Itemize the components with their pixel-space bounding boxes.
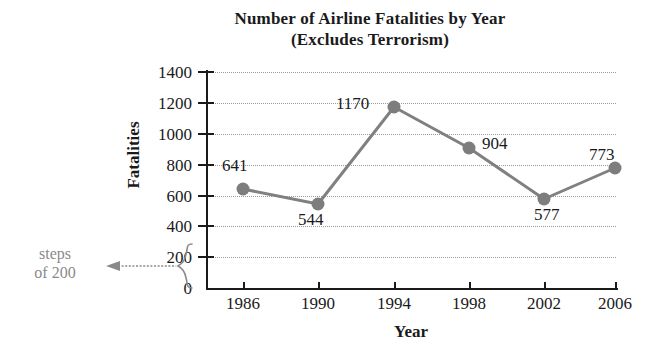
x-tick-1986: [243, 282, 245, 290]
annotation-line2: of 200: [12, 263, 98, 282]
x-axis-line: [206, 288, 618, 290]
data-label-1986: 641: [222, 157, 248, 174]
y-tick-1000: [198, 133, 214, 135]
chart-figure: Number of Airline Fatalities by Year (Ex…: [0, 0, 646, 356]
gridline-1000: [206, 134, 616, 135]
x-tick-1998: [469, 282, 471, 290]
annotation-curly-brace: [178, 244, 192, 288]
series-polyline: [243, 107, 615, 204]
x-tick-1990: [318, 282, 320, 290]
x-tick-label-2006: 2006: [580, 294, 646, 313]
y-tick-800: [198, 164, 214, 166]
gridline-1400: [206, 72, 616, 73]
x-tick-label-1986: 1986: [208, 294, 278, 313]
y-tick-600: [198, 195, 214, 197]
x-tick-2006: [615, 282, 617, 290]
gridline-800: [206, 165, 616, 166]
data-point-1998: [463, 142, 476, 155]
chart-title-line2: (Excludes Terrorism): [160, 29, 580, 50]
y-tick-1200: [198, 102, 214, 104]
data-label-1990: 544: [298, 211, 324, 228]
gridline-1200: [206, 103, 616, 104]
data-label-2002: 577: [534, 206, 560, 223]
y-axis-title: Fatalities: [124, 75, 144, 235]
chart-title: Number of Airline Fatalities by Year (Ex…: [160, 8, 580, 50]
annotation-line1: steps: [12, 244, 98, 263]
x-tick-label-2002: 2002: [509, 294, 579, 313]
x-tick-2002: [544, 282, 546, 290]
gridline-600: [206, 196, 616, 197]
chart-title-line1: Number of Airline Fatalities by Year: [234, 9, 505, 28]
x-axis-title: Year: [206, 322, 616, 342]
gridline-400: [206, 226, 616, 227]
annotation-steps-of-200: steps of 200: [12, 244, 98, 282]
x-tick-label-1990: 1990: [283, 294, 353, 313]
y-tick-400: [198, 225, 214, 227]
annotation-arrow-brace: [96, 238, 202, 294]
annotation-arrow-head: [106, 261, 120, 271]
data-point-1990: [312, 198, 325, 211]
x-tick-label-1994: 1994: [359, 294, 429, 313]
gridline-200: [206, 257, 616, 258]
data-label-2006: 773: [589, 146, 615, 163]
y-tick-1400: [198, 71, 214, 73]
x-tick-1994: [394, 282, 396, 290]
data-label-1994: 1170: [336, 95, 369, 112]
data-label-1998: 904: [482, 135, 508, 152]
data-point-2002: [538, 193, 551, 206]
x-tick-label-1998: 1998: [434, 294, 504, 313]
data-point-1986: [237, 183, 250, 196]
